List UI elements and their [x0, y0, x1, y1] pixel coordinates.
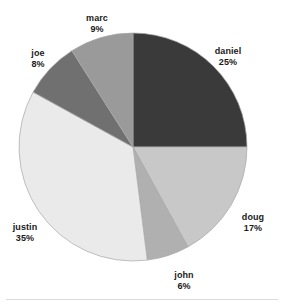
pie-label-joe-value: 8%	[8, 59, 68, 70]
pie-label-justin-value: 35%	[0, 233, 55, 244]
pie-label-joe-name: joe	[8, 48, 68, 59]
pie-label-justin: justin 35%	[0, 222, 55, 245]
pie-label-doug-value: 17%	[223, 223, 283, 234]
pie-label-doug: doug 17%	[223, 212, 283, 235]
pie-label-daniel: daniel 25%	[198, 46, 258, 69]
pie-label-marc-name: marc	[67, 13, 127, 24]
pie-label-doug-name: doug	[223, 212, 283, 223]
pie-label-justin-name: justin	[0, 222, 55, 233]
pie-label-john: john 6%	[154, 270, 214, 293]
pie-label-john-value: 6%	[154, 281, 214, 292]
bottom-rule	[6, 299, 278, 300]
pie-label-marc-value: 9%	[67, 24, 127, 35]
pie-label-joe: joe 8%	[8, 48, 68, 71]
pie-label-john-name: john	[154, 270, 214, 281]
pie-label-daniel-name: daniel	[198, 46, 258, 57]
pie-label-daniel-value: 25%	[198, 57, 258, 68]
pie-chart: daniel 25% doug 17% john 6% justin 35% j…	[0, 0, 284, 308]
pie-label-marc: marc 9%	[67, 13, 127, 36]
